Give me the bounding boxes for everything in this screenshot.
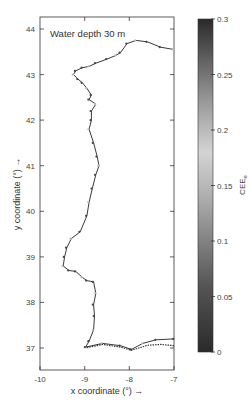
data-point	[159, 46, 161, 48]
plot-area	[40, 17, 174, 370]
x-tick-label: -9	[81, 375, 89, 384]
x-tick-label: -10	[34, 375, 46, 384]
data-point	[134, 39, 136, 41]
x-axis-label: x coordinate (°) →	[71, 386, 144, 396]
y-tick-label: 41	[26, 162, 35, 171]
data-point	[81, 276, 83, 278]
data-point	[154, 339, 156, 341]
depth-annotation: Water depth 30 m	[50, 28, 125, 39]
data-point	[67, 269, 69, 271]
colorbar-tick-label: 0.05	[217, 293, 233, 302]
data-point	[92, 281, 94, 283]
data-point	[95, 156, 97, 158]
data-point	[78, 231, 80, 233]
data-point	[61, 265, 63, 267]
colorbar	[198, 19, 213, 352]
data-point	[92, 142, 94, 144]
data-point	[90, 187, 92, 189]
data-point	[105, 58, 107, 60]
data-point	[74, 70, 76, 72]
y-tick-label: 38	[26, 298, 35, 307]
data-point	[81, 82, 83, 84]
data-point	[93, 315, 95, 317]
y-tick-label: 40	[26, 207, 35, 216]
colorbar-tick-label: 0.3	[217, 15, 229, 24]
data-point	[172, 48, 174, 50]
colorbar-label: CEEe	[238, 174, 248, 194]
data-point	[90, 94, 92, 96]
colorbar-tick-label: 0.15	[217, 182, 233, 191]
data-point	[87, 99, 89, 101]
y-tick-label: 37	[26, 344, 35, 353]
data-point	[69, 238, 71, 240]
data-point	[141, 342, 143, 344]
x-tick-label: -8	[126, 375, 134, 384]
data-point	[63, 256, 65, 258]
y-axis-label: y coordinate (°) →	[12, 158, 22, 231]
data-point	[74, 270, 76, 272]
data-point	[125, 43, 127, 45]
data-point	[87, 201, 89, 203]
data-point	[94, 62, 96, 64]
data-point	[94, 103, 96, 105]
colorbar-tick-label: 0.2	[217, 126, 229, 135]
colorbar-tick-label: 0.1	[217, 237, 229, 246]
y-tick-label: 42	[26, 116, 35, 125]
data-point	[87, 128, 89, 130]
colorbar-tick-label: 0.25	[217, 71, 233, 80]
chart: -10 -9 -8 -7 x coordinate (°) → 37 38 39…	[0, 0, 250, 412]
colorbar-tick-label: 0	[217, 348, 222, 357]
data-point	[72, 74, 74, 76]
data-point	[97, 165, 99, 167]
data-point	[65, 247, 67, 249]
y-tick-label: 39	[26, 253, 35, 262]
data-point	[85, 87, 87, 89]
data-point	[92, 329, 94, 331]
y-tick-label: 44	[26, 25, 35, 34]
data-point	[94, 292, 96, 294]
data-point	[81, 67, 83, 69]
x-tick-label: -7	[170, 375, 178, 384]
data-point	[84, 346, 86, 348]
svg-text:CEEe: CEEe	[238, 174, 248, 194]
data-point	[85, 215, 87, 217]
data-point	[76, 78, 78, 80]
y-tick-label: 43	[26, 71, 35, 80]
data-point	[90, 110, 92, 112]
data-point	[87, 340, 89, 342]
data-point	[87, 65, 89, 67]
data-point	[92, 304, 94, 306]
data-point	[94, 174, 96, 176]
data-point	[85, 280, 87, 282]
data-point	[172, 338, 174, 340]
data-point	[114, 54, 116, 56]
data-point	[90, 119, 92, 121]
data-point	[145, 41, 147, 43]
data-point	[119, 52, 121, 54]
